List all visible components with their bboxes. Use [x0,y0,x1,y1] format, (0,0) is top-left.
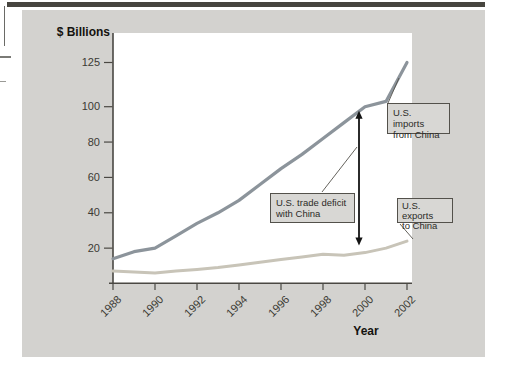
imports-label-line2: from China [393,129,444,140]
imports-series-line [113,63,407,259]
exports-label-line1: U.S. exports [402,201,448,221]
exports-label-line2: to China [402,221,448,231]
imports-label-box: U.S. imports from China [387,103,450,134]
imports-label-line1: U.S. imports [393,107,444,129]
deficit-label-box: U.S. trade deficit with China [270,193,355,223]
deficit-leader-line [322,147,357,192]
exports-label-box: U.S. exports to China [397,198,453,223]
figure-canvas: $ Billions Year 204060801001251988199019… [0,0,510,376]
deficit-label-line1: U.S. trade deficit [276,197,349,208]
imports-leader-line [388,78,399,103]
deficit-arrow-down-head-icon [355,238,362,246]
deficit-label-line2: with China [276,208,349,219]
chart-lines-svg [0,0,510,376]
